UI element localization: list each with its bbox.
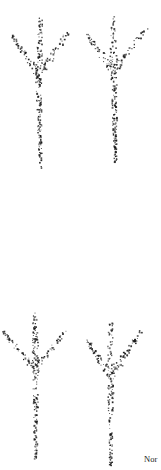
footprint-bottom-left (2, 313, 66, 460)
footprint-bottom-right (86, 322, 142, 466)
footprint-top-right (86, 16, 148, 163)
footprint-top-left (12, 18, 70, 169)
caption-text: Nor (144, 455, 157, 464)
footprints-illustration (0, 0, 161, 470)
